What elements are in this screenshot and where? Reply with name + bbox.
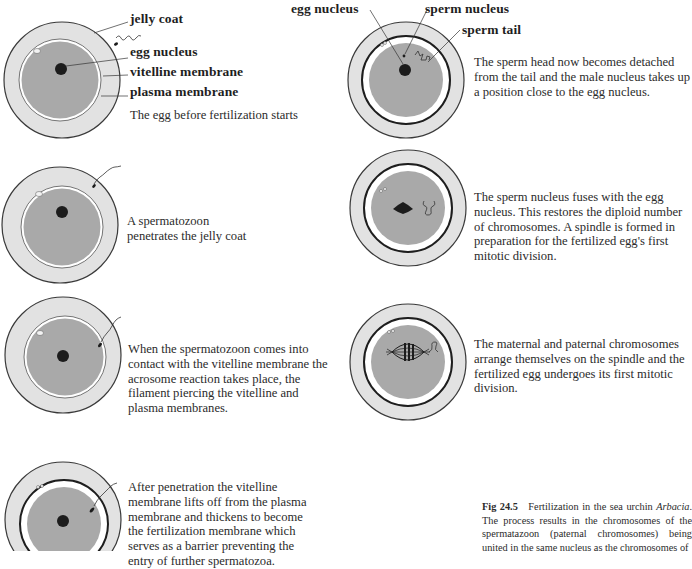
sperm-nucleus-icon: [403, 55, 406, 58]
egg-nucleus-icon: [57, 515, 69, 527]
label-jelly-coat: jelly coat: [130, 11, 183, 27]
egg-stage-5: [348, 10, 464, 138]
egg-nucleus-icon: [399, 64, 411, 76]
stage-6-description: The sperm nucleus fuses with the egg nuc…: [474, 190, 689, 264]
label-sperm-tail: sperm tail: [462, 22, 521, 38]
polar-body-icon: [36, 192, 43, 197]
egg-stage-6: [350, 150, 466, 266]
label-plasma-membrane: plasma membrane: [130, 84, 238, 100]
stage-5-description: The sperm head now becomes detached from…: [474, 55, 692, 99]
figure-organism: Arbacia: [656, 501, 689, 512]
egg-stage-7: [350, 304, 466, 420]
egg-stage-4: [5, 462, 121, 551]
stage-4-description: After penetration the vitelline membrane…: [128, 480, 320, 569]
figure-number: Fig 24.5: [482, 501, 518, 512]
figure-caption: Fig 24.5 Fertilization in the sea urchin…: [482, 500, 692, 554]
egg-nucleus-icon: [55, 63, 67, 75]
egg-nucleus-icon: [56, 206, 68, 218]
figure-title: Fertilization in the sea urchin: [528, 501, 652, 512]
egg-nucleus-icon: [57, 350, 69, 362]
figure-caption-text: The process results in the chromosomes o…: [482, 515, 692, 553]
stage-2-description: A spermatozoon penetrates the jelly coat: [127, 214, 262, 244]
label-sperm-nucleus: sperm nucleus: [425, 1, 509, 17]
polar-body-icon: [37, 331, 44, 336]
label-egg-nucleus-2: egg nucleus: [291, 1, 358, 17]
sperm-head-icon: [113, 42, 118, 47]
egg-stage-3: [5, 297, 121, 413]
label-egg-nucleus: egg nucleus: [130, 44, 197, 60]
egg-stage-2: [2, 166, 121, 283]
label-vitelline-membrane: vitelline membrane: [130, 64, 243, 80]
egg-stage-1: [4, 22, 141, 138]
polar-body-icon: [34, 49, 41, 54]
stage-3-description: When the spermatozoon comes into contact…: [128, 342, 333, 416]
stage-1-description: The egg before fertilization starts: [130, 108, 330, 123]
stage-7-description: The maternal and paternal chromosomes ar…: [474, 337, 692, 396]
